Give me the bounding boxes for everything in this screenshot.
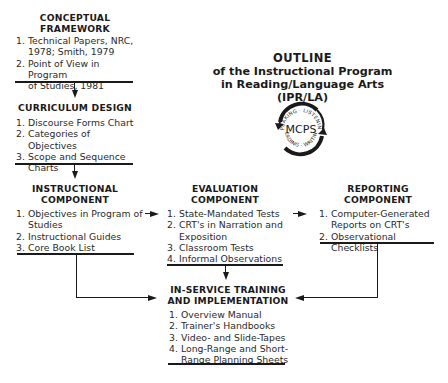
circular-arrows-icon: SPEAKING · LISTENING READING · WRITING M… bbox=[272, 100, 330, 158]
arrow-right-icon bbox=[150, 211, 159, 217]
item-text: Classroom Tests bbox=[179, 242, 292, 253]
item-number: 1. bbox=[16, 117, 25, 128]
item-text: Computer-Generated bbox=[331, 208, 444, 219]
item-text: Trainer's Handbooks bbox=[181, 320, 294, 331]
conceptual-framework-header: CONCEPTUAL FRAMEWORK bbox=[15, 12, 135, 34]
header-line: COMPONENT bbox=[318, 194, 438, 205]
item-text: Overview Manual bbox=[181, 309, 294, 320]
curriculum-design-list: 1. Discourse Forms Chart 2. Categories o… bbox=[16, 117, 141, 173]
list-item: 1. Objectives in Program of Studies bbox=[16, 208, 146, 231]
arrow-down-icon bbox=[72, 90, 78, 98]
instructional-component-header: INSTRUCTIONAL COMPONENT bbox=[15, 183, 135, 205]
item-number: 2. bbox=[167, 219, 176, 230]
diagram-title: OUTLINE of the Instructional Program in … bbox=[195, 52, 410, 104]
instructional-component-list: 1. Objectives in Program of Studies 2. I… bbox=[16, 208, 146, 253]
list-item: 1. State-Mandated Tests bbox=[167, 208, 292, 219]
item-number: 1. bbox=[169, 309, 178, 320]
list-item: 3. Video- and Slide-Tapes bbox=[169, 332, 294, 343]
item-number: 2. bbox=[16, 58, 25, 69]
item-text: Discourse Forms Chart bbox=[28, 117, 141, 128]
curriculum-design-header: CURRICULUM DESIGN bbox=[10, 102, 140, 113]
title-outline: OUTLINE bbox=[195, 52, 410, 65]
item-number: 4. bbox=[167, 253, 176, 264]
item-number: 2. bbox=[16, 128, 25, 139]
item-text: Point of View in Program bbox=[28, 58, 141, 81]
list-item: 2. Trainer's Handbooks bbox=[169, 320, 294, 331]
arrow-right-icon bbox=[148, 295, 157, 301]
reporting-component-header: REPORTING COMPONENT bbox=[318, 183, 438, 205]
connector-line bbox=[377, 243, 378, 298]
list-item: 2. Categories of Objectives bbox=[16, 128, 141, 151]
item-text: Core Book List bbox=[28, 242, 146, 253]
list-item: 1. Discourse Forms Chart bbox=[16, 117, 141, 128]
item-text: Instructional Guides bbox=[28, 231, 146, 242]
arrow-left-icon bbox=[295, 295, 304, 301]
item-text: Exposition bbox=[179, 231, 292, 242]
list-item: 3. Core Book List bbox=[16, 242, 146, 253]
arrow-down-icon bbox=[72, 171, 78, 179]
item-text: Informal Observations bbox=[179, 253, 292, 264]
header-line: CURRICULUM DESIGN bbox=[10, 102, 140, 113]
item-text: Reports on CRT's bbox=[331, 219, 444, 230]
item-number: 3. bbox=[16, 151, 25, 162]
connector-line bbox=[76, 254, 77, 298]
header-line: AND IMPLEMENTATION bbox=[163, 295, 293, 306]
header-line: EVALUATION bbox=[165, 183, 285, 194]
item-number: 4. bbox=[169, 343, 178, 354]
list-item: 3. Classroom Tests bbox=[167, 242, 292, 253]
header-line: INSTRUCTIONAL bbox=[15, 183, 135, 194]
inservice-training-rule bbox=[168, 363, 285, 365]
title-line-2: of the Instructional Program bbox=[195, 65, 410, 78]
item-number: 3. bbox=[16, 242, 25, 253]
item-number: 1. bbox=[319, 208, 328, 219]
arrow-right-icon bbox=[298, 211, 307, 217]
item-number: 3. bbox=[169, 332, 178, 343]
item-text: Video- and Slide-Tapes bbox=[181, 332, 294, 343]
evaluation-component-header: EVALUATION COMPONENT bbox=[165, 183, 285, 205]
item-text: Long-Range and Short- bbox=[181, 343, 294, 354]
list-item: 1. Computer-Generated Reports on CRT's bbox=[319, 208, 444, 231]
list-item: 1. Technical Papers, NRC, 1978; Smith, 1… bbox=[16, 35, 141, 58]
item-number: 1. bbox=[167, 208, 176, 219]
header-line: COMPONENT bbox=[165, 194, 285, 205]
item-text: Categories of Objectives bbox=[28, 128, 141, 151]
item-text: 1978; Smith, 1979 bbox=[28, 46, 141, 57]
list-item: 2. CRT's in Narration and Exposition bbox=[167, 219, 292, 242]
arrow-down-icon bbox=[223, 272, 229, 280]
item-number: 2. bbox=[319, 231, 328, 242]
connector-line bbox=[76, 297, 151, 298]
header-line: REPORTING bbox=[318, 183, 438, 194]
list-item: 4. Informal Observations bbox=[167, 253, 292, 264]
inservice-training-header: IN-SERVICE TRAINING AND IMPLEMENTATION bbox=[163, 284, 293, 306]
item-text: CRT's in Narration and bbox=[179, 219, 292, 230]
list-item: 2. Instructional Guides bbox=[16, 231, 146, 242]
header-line: COMPONENT bbox=[15, 194, 135, 205]
item-text: Technical Papers, NRC, bbox=[28, 35, 141, 46]
list-item: 2. Point of View in Program of Studies, … bbox=[16, 58, 141, 92]
svg-text:MCPS: MCPS bbox=[286, 123, 317, 136]
item-number: 2. bbox=[16, 231, 25, 242]
item-text: Scope and Sequence bbox=[28, 151, 141, 162]
item-number: 1. bbox=[16, 208, 25, 219]
item-text: Objectives in Program of bbox=[28, 208, 146, 219]
item-text: State-Mandated Tests bbox=[179, 208, 292, 219]
header-line: CONCEPTUAL bbox=[15, 12, 135, 23]
mcps-logo: SPEAKING · LISTENING READING · WRITING M… bbox=[272, 100, 330, 158]
item-number: 1. bbox=[16, 35, 25, 46]
item-number: 2. bbox=[169, 320, 178, 331]
item-text: Studies bbox=[28, 219, 146, 230]
inservice-training-list: 1. Overview Manual 2. Trainer's Handbook… bbox=[169, 309, 294, 365]
conceptual-framework-list: 1. Technical Papers, NRC, 1978; Smith, 1… bbox=[16, 35, 141, 91]
reporting-component-list: 1. Computer-Generated Reports on CRT's 2… bbox=[319, 208, 444, 253]
item-number: 3. bbox=[167, 242, 176, 253]
evaluation-component-list: 1. State-Mandated Tests 2. CRT's in Narr… bbox=[167, 208, 292, 264]
connector-line bbox=[302, 297, 378, 298]
header-line: IN-SERVICE TRAINING bbox=[163, 284, 293, 295]
header-line: FRAMEWORK bbox=[15, 23, 135, 34]
list-item: 1. Overview Manual bbox=[169, 309, 294, 320]
